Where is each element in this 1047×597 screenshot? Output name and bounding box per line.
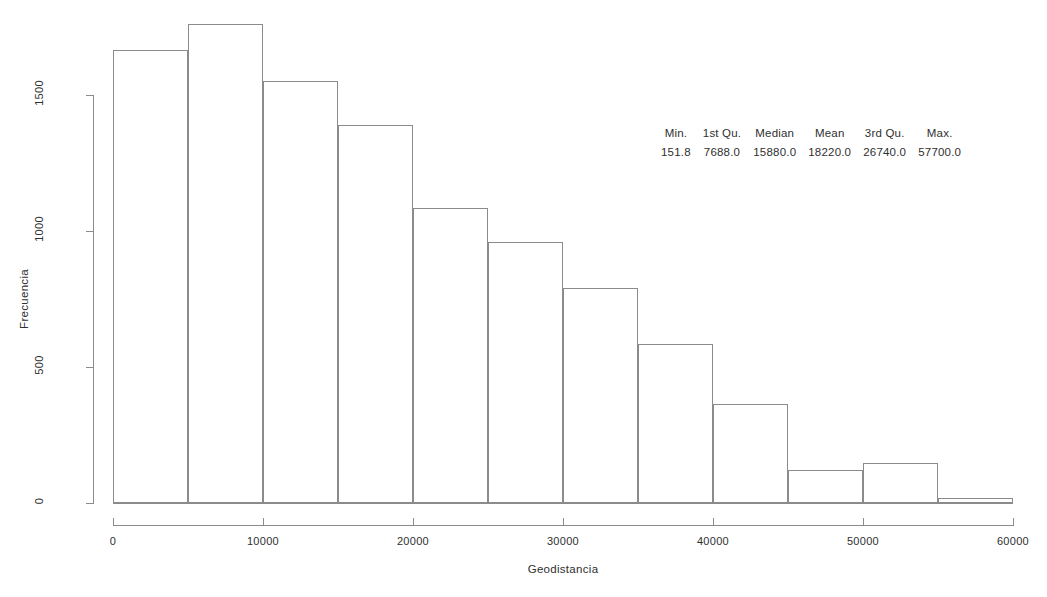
x-axis-tick bbox=[113, 518, 114, 526]
summary-header-cell: 3rd Qu. bbox=[857, 126, 912, 144]
x-axis-tick-label: 0 bbox=[110, 535, 116, 547]
histogram-bar bbox=[188, 24, 263, 503]
summary-header-cell: Max. bbox=[912, 126, 967, 144]
summary-header-cell: Min. bbox=[655, 126, 697, 144]
x-axis-tick bbox=[713, 518, 714, 526]
x-axis-title: Geodistancia bbox=[528, 563, 599, 575]
histogram-bar bbox=[563, 288, 638, 503]
y-axis-tick bbox=[86, 95, 94, 96]
summary-value-cell: 26740.0 bbox=[857, 144, 912, 163]
histogram-bar bbox=[863, 463, 938, 503]
x-axis-tick-label: 20000 bbox=[397, 535, 429, 547]
x-axis-tick bbox=[563, 518, 564, 526]
summary-value-cell: 18220.0 bbox=[802, 144, 857, 163]
summary-statistics: Min.1st Qu.MedianMean3rd Qu.Max. 151.876… bbox=[655, 126, 967, 162]
y-axis-line bbox=[93, 95, 94, 503]
histogram-bar bbox=[713, 404, 788, 503]
x-axis-tick bbox=[863, 518, 864, 526]
summary-statistics-table: Min.1st Qu.MedianMean3rd Qu.Max. 151.876… bbox=[655, 126, 967, 162]
y-axis-tick bbox=[86, 503, 94, 504]
summary-value-cell: 7688.0 bbox=[697, 144, 747, 163]
histogram-bar bbox=[113, 50, 188, 503]
histogram-bar bbox=[338, 125, 413, 503]
summary-header-cell: 1st Qu. bbox=[697, 126, 747, 144]
y-axis-tick-label: 0 bbox=[33, 462, 45, 540]
x-axis-tick-label: 30000 bbox=[547, 535, 579, 547]
y-axis-tick-label: 1000 bbox=[33, 190, 45, 268]
x-axis-tick-label: 60000 bbox=[997, 535, 1029, 547]
histogram-figure: 050010001500 010000200003000040000500006… bbox=[0, 0, 1047, 597]
summary-value-cell: 151.8 bbox=[655, 144, 697, 163]
histogram-bar bbox=[263, 81, 338, 503]
summary-header-cell: Median bbox=[747, 126, 802, 144]
summary-value-cell: 57700.0 bbox=[912, 144, 967, 163]
summary-header-cell: Mean bbox=[802, 126, 857, 144]
y-axis-tick bbox=[86, 367, 94, 368]
x-axis-tick-label: 50000 bbox=[847, 535, 879, 547]
histogram-bar bbox=[488, 242, 563, 503]
plot-area: 050010001500 010000200003000040000500006… bbox=[0, 0, 1047, 597]
y-axis-title: Frecuencia bbox=[18, 269, 30, 329]
histogram-baseline bbox=[113, 503, 1013, 504]
x-axis-tick-label: 40000 bbox=[697, 535, 729, 547]
x-axis-tick bbox=[263, 518, 264, 526]
y-axis-tick bbox=[86, 231, 94, 232]
y-axis-tick-label: 1500 bbox=[33, 54, 45, 132]
histogram-bar bbox=[638, 344, 713, 503]
x-axis-tick-label: 10000 bbox=[247, 535, 279, 547]
y-axis-tick-label: 500 bbox=[33, 326, 45, 404]
summary-header-row: Min.1st Qu.MedianMean3rd Qu.Max. bbox=[655, 126, 967, 144]
summary-value-row: 151.87688.015880.018220.026740.057700.0 bbox=[655, 144, 967, 163]
x-axis-tick bbox=[1013, 518, 1014, 526]
histogram-bar bbox=[788, 470, 863, 503]
histogram-bar bbox=[413, 208, 488, 503]
x-axis-tick bbox=[413, 518, 414, 526]
summary-value-cell: 15880.0 bbox=[747, 144, 802, 163]
